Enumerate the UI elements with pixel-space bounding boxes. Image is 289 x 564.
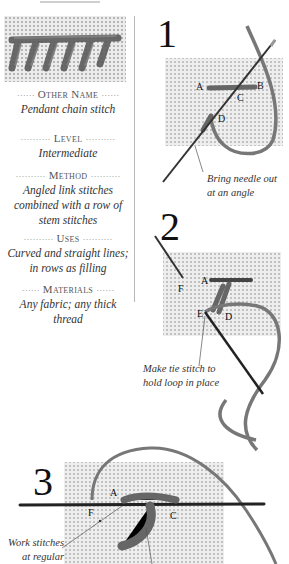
point-label-f: F bbox=[88, 507, 94, 518]
point-label-a: A bbox=[201, 275, 208, 286]
section-body: Angled link stitches combined with a row… bbox=[0, 183, 136, 228]
section-body: Curved and straight lines; in rows as fi… bbox=[0, 246, 136, 276]
method-section: ·········· Method ·········· Angled link… bbox=[0, 169, 136, 228]
point-label-a: A bbox=[196, 81, 203, 92]
point-label-f: F bbox=[178, 283, 184, 294]
level-section: ·········· Level ·········· Intermediate bbox=[0, 132, 136, 161]
section-heading: ······ Materials ······ bbox=[0, 283, 136, 297]
section-body: Any fabric; any thick thread bbox=[0, 297, 136, 327]
section-heading: ·········· Method ·········· bbox=[0, 169, 136, 183]
other-name-section: ······ Other Name ······ Pendant chain s… bbox=[0, 88, 136, 117]
point-label-e: E bbox=[197, 308, 203, 319]
point-label-c: C bbox=[170, 510, 177, 521]
point-label-a: A bbox=[110, 487, 117, 498]
point-label-c: C bbox=[237, 92, 244, 103]
point-label-d: D bbox=[218, 113, 225, 124]
section-body: Intermediate bbox=[0, 146, 136, 161]
step-3-caption: Work stitches at regular bbox=[4, 536, 64, 564]
section-heading: ·········· Level ·········· bbox=[0, 132, 136, 146]
point-label-b: B bbox=[257, 80, 264, 91]
sidebar-divider bbox=[134, 16, 135, 302]
materials-section: ······ Materials ······ Any fabric; any … bbox=[0, 283, 136, 327]
point-label-d: D bbox=[225, 311, 232, 322]
section-heading: ······ Other Name ······ bbox=[0, 88, 136, 102]
uses-section: ·········· Uses ·········· Curved and st… bbox=[0, 232, 136, 276]
step-1-illustration bbox=[145, 0, 289, 200]
step-1-caption: Bring needle out at an angle bbox=[207, 172, 277, 200]
section-body: Pendant chain stitch bbox=[0, 102, 136, 117]
step-2-caption: Make tie stitch to hold loop in place bbox=[143, 362, 219, 390]
stitch-sample-image bbox=[4, 16, 126, 82]
section-heading: ·········· Uses ·········· bbox=[0, 232, 136, 246]
stitch-info-panel: ······ Other Name ······ Pendant chain s… bbox=[0, 0, 136, 302]
